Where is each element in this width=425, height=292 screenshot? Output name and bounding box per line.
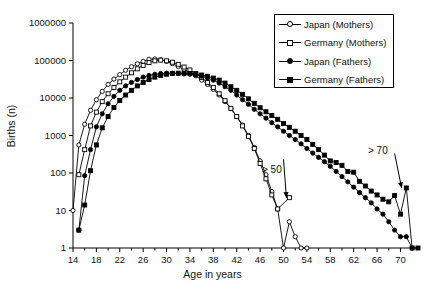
y-tick-label: 1 [0,242,66,253]
legend-marker-circle-filled-icon [279,56,301,66]
y-tick-label: 1000000 [0,17,66,28]
legend-marker-square-filled-icon [279,75,301,85]
legend-label: Germany (Mothers) [304,37,386,48]
y-tick-label: 10 [0,205,66,216]
y-tick-label: 1000 [0,130,66,141]
legend-label: Germany (Fathers) [304,74,384,85]
legend-marker-circle-open-icon [279,19,301,29]
x-axis-title: Age in years [0,268,425,280]
legend-label: Japan (Fathers) [304,56,371,67]
series-germany-fathers [77,71,420,250]
chart-container: Births (n) Age in years 1101001000100001… [0,0,425,292]
annotation-gt50: > 50 [262,164,282,175]
legend-item-japan-fathers: Japan (Fathers) [275,52,393,71]
chart-legend: Japan (Mothers) Germany (Mothers) Japan … [274,14,394,88]
legend-item-germany-fathers: Germany (Fathers) [275,71,393,90]
legend-item-japan-mothers: Japan (Mothers) [275,15,393,34]
y-tick-label: 100 [0,167,66,178]
annotation-arrow-50 [283,159,288,197]
legend-item-germany-mothers: Germany (Mothers) [275,34,393,53]
legend-label: Japan (Mothers) [304,19,373,30]
y-tick-label: 100000 [0,55,66,66]
legend-marker-square-open-icon [279,38,301,48]
series-japan-fathers [77,71,415,250]
annotation-gt70: > 70 [368,145,388,156]
series-germany-mothers [77,58,292,211]
y-tick-label: 10000 [0,92,66,103]
x-tick-label: 70 [386,254,414,265]
annotation-arrow-70 [395,154,403,188]
